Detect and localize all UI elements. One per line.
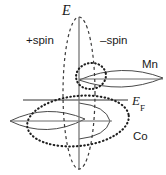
figure-canvas [0,0,166,175]
band-structure-figure: E +spin –spin Mn EF Co [0,0,166,175]
co-plus-spin-lens [10,111,85,129]
cobalt-label: Co [133,131,148,143]
fermi-level-label: EF [132,94,145,111]
energy-axis-label: E [62,4,71,18]
fermi-level-subscript: F [140,103,145,113]
manganese-label: Mn [142,59,158,71]
minus-spin-label: –spin [100,35,128,47]
fermi-level-symbol: E [132,93,140,108]
plus-spin-label: +spin [26,35,54,47]
